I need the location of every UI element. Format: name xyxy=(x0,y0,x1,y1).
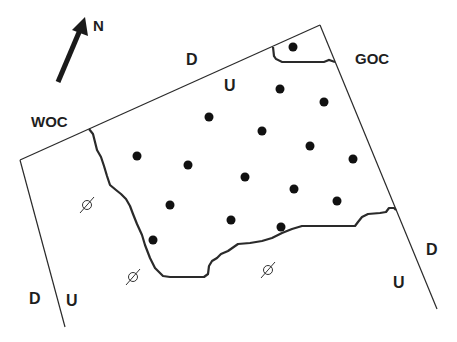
woc-contour xyxy=(89,129,396,277)
woc-label: WOC xyxy=(31,113,68,130)
goc-label: GOC xyxy=(355,50,389,67)
dry-well-icon xyxy=(261,262,275,278)
well-dot xyxy=(133,152,142,161)
well-dot xyxy=(289,43,298,52)
well-dot xyxy=(184,161,193,170)
well-dot xyxy=(166,201,175,210)
top-fault-down-label: D xyxy=(186,51,198,68)
well-dot xyxy=(258,127,267,136)
wells xyxy=(133,43,358,245)
well-dot xyxy=(349,155,358,164)
dry-well-icon xyxy=(126,269,140,285)
well-dot xyxy=(333,197,342,206)
well-dot xyxy=(241,173,250,182)
right-fault-line xyxy=(320,25,437,309)
left-fault-up-label: U xyxy=(66,292,78,309)
top-fault-line xyxy=(20,25,320,160)
well-dot xyxy=(290,185,299,194)
north-arrow-icon xyxy=(58,17,88,82)
left-fault-line xyxy=(20,160,65,327)
well-dot xyxy=(227,216,236,225)
reservoir-map: N WOC GOC D U D U D U xyxy=(0,0,457,342)
well-dot xyxy=(320,98,329,107)
dry-well-icon xyxy=(80,197,94,213)
right-fault-down-label: D xyxy=(426,241,438,258)
right-fault-up-label: U xyxy=(393,274,405,291)
well-dot xyxy=(277,223,286,232)
well-dot xyxy=(306,142,315,151)
north-label: N xyxy=(93,17,104,34)
well-dot xyxy=(205,113,214,122)
goc-contour xyxy=(273,47,335,62)
top-fault-up-label: U xyxy=(224,77,236,94)
well-dot xyxy=(149,236,158,245)
well-dot xyxy=(276,85,285,94)
left-fault-down-label: D xyxy=(29,290,41,307)
